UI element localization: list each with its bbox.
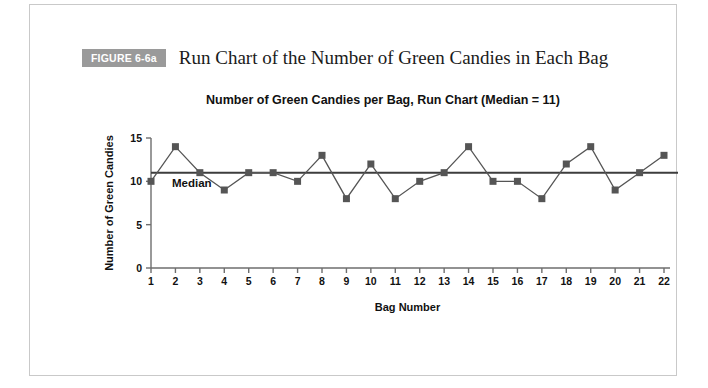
median-annotation-label: Median <box>172 177 212 189</box>
x-tick-label: 21 <box>634 275 646 287</box>
x-tick-label: 6 <box>270 275 276 287</box>
data-point-marker <box>587 143 594 150</box>
y-tick-label: 15 <box>130 132 142 144</box>
x-tick-label: 4 <box>221 275 227 287</box>
data-point-marker <box>514 178 521 185</box>
axes-group <box>146 138 670 273</box>
x-tick-label: 22 <box>658 275 670 287</box>
x-tick-label: 5 <box>246 275 252 287</box>
figure-caption-row: FIGURE 6-6a Run Chart of the Number of G… <box>82 47 608 69</box>
y-tick-label: 10 <box>130 175 142 187</box>
data-point-marker <box>563 161 570 168</box>
x-tick-label: 8 <box>319 275 325 287</box>
data-point-marker <box>319 152 326 159</box>
y-axis-title: Number of Green Candies <box>103 135 115 271</box>
x-tick-label: 16 <box>512 275 524 287</box>
data-point-marker <box>172 143 179 150</box>
x-tick-label: 13 <box>438 275 450 287</box>
x-axis-title: Bag Number <box>375 301 441 313</box>
data-point-marker <box>367 161 374 168</box>
data-point-marker <box>416 178 423 185</box>
data-point-marker <box>245 169 252 176</box>
x-tick-label: 19 <box>585 275 597 287</box>
data-point-marker <box>221 187 228 194</box>
data-point-marker <box>270 169 277 176</box>
data-point-marker <box>441 169 448 176</box>
chart-plot-svg: Median 051015123456789101112131415161718… <box>59 85 707 335</box>
figure-number-badge: FIGURE 6-6a <box>82 49 166 68</box>
x-tick-label: 7 <box>295 275 301 287</box>
x-tick-label: 10 <box>365 275 377 287</box>
x-tick-label: 12 <box>414 275 426 287</box>
run-chart: Number of Green Candies per Bag, Run Cha… <box>59 85 707 335</box>
x-tick-label: 9 <box>344 275 350 287</box>
data-point-marker <box>465 143 472 150</box>
data-point-marker <box>636 169 643 176</box>
x-tick-label: 17 <box>536 275 548 287</box>
figure-frame: FIGURE 6-6a Run Chart of the Number of G… <box>29 4 677 376</box>
data-point-marker <box>661 152 668 159</box>
data-point-marker <box>294 178 301 185</box>
y-tick-label: 5 <box>136 219 142 231</box>
x-tick-label: 1 <box>148 275 154 287</box>
x-tick-label: 3 <box>197 275 203 287</box>
data-point-marker <box>612 187 619 194</box>
x-tick-label: 20 <box>609 275 621 287</box>
x-tick-label: 18 <box>560 275 572 287</box>
data-point-marker <box>196 169 203 176</box>
axis-labels-group: 0510151234567891011121314151617181920212… <box>103 132 670 313</box>
data-point-marker <box>490 178 497 185</box>
data-point-marker <box>392 195 399 202</box>
data-point-marker <box>343 195 350 202</box>
x-tick-label: 15 <box>487 275 499 287</box>
x-tick-label: 2 <box>173 275 179 287</box>
figure-caption-text: Run Chart of the Number of Green Candies… <box>179 47 609 69</box>
data-point-marker <box>538 195 545 202</box>
x-tick-label: 11 <box>390 275 401 287</box>
x-tick-label: 14 <box>463 275 475 287</box>
data-point-marker <box>148 178 155 185</box>
y-tick-label: 0 <box>136 262 142 274</box>
